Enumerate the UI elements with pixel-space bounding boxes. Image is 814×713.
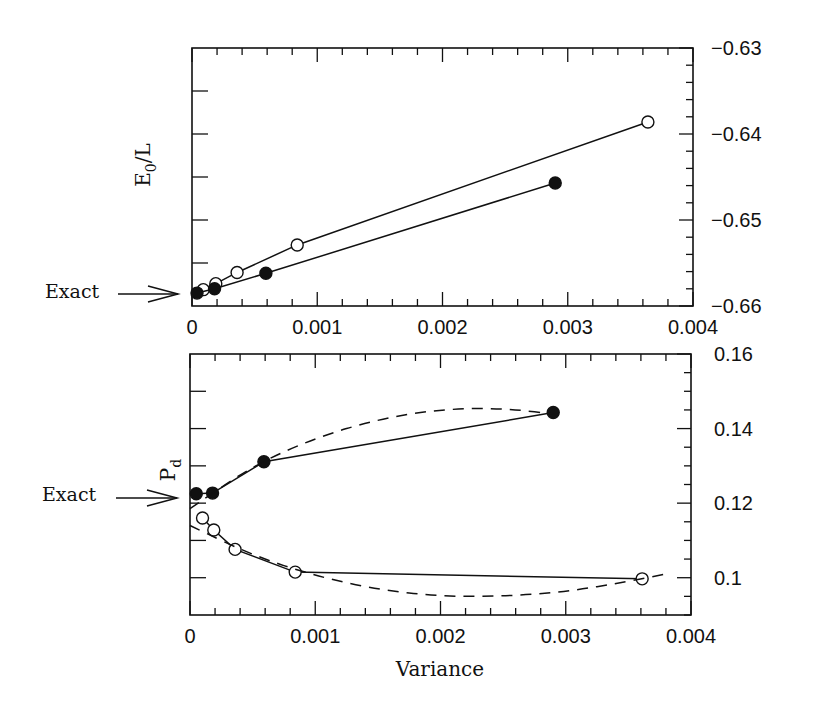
bottom-y-tick-label: 0.1	[714, 567, 742, 589]
svg-text:E0/L: E0/L	[131, 143, 159, 187]
top-y-tick-label: −0.65	[711, 209, 762, 231]
exact-arrow-bottom-icon	[116, 490, 177, 506]
bottom-y-tick-label: 0.16	[714, 343, 753, 365]
bottom-series-line	[196, 413, 553, 494]
top-series-line	[197, 183, 555, 293]
top-series-line	[203, 122, 648, 290]
filled-circle-marker	[547, 407, 559, 419]
bottom-y-axis-title: Pd	[156, 459, 184, 481]
top-y-axis-title: E0/L	[131, 143, 159, 187]
bottom-series-line	[203, 518, 643, 579]
top-y-tick-label: −0.64	[711, 123, 762, 145]
bottom-x-tick-label: 0.003	[541, 625, 591, 647]
bottom-x-tick-label: 0.004	[666, 625, 716, 647]
filled-circle-marker	[191, 287, 203, 299]
exact-label-bottom: Exact	[42, 483, 97, 505]
x-axis-title: Variance	[395, 657, 484, 681]
filled-circle-marker	[190, 488, 202, 500]
exact-label-top: Exact	[45, 280, 100, 302]
bottom-series-line	[190, 526, 666, 597]
top-x-tick-label: 0	[186, 316, 197, 338]
bottom-y-tick-label: 0.14	[714, 418, 753, 440]
bottom-panel: 00.0010.0020.0030.0040.160.140.120.1	[184, 343, 753, 647]
top-x-tick-label: 0.001	[292, 316, 342, 338]
filled-circle-marker	[209, 283, 221, 295]
filled-circle-marker	[258, 456, 270, 468]
bottom-x-tick-label: 0	[184, 625, 195, 647]
open-circle-marker	[197, 512, 209, 524]
open-circle-marker	[231, 266, 243, 278]
open-circle-marker	[289, 566, 301, 578]
top-panel: 00.0010.0020.0030.004−0.63−0.64−0.65−0.6…	[186, 37, 761, 338]
top-y-tick-label: −0.63	[711, 37, 762, 59]
chart-figure: 00.0010.0020.0030.004−0.63−0.64−0.65−0.6…	[0, 0, 814, 713]
top-x-tick-label: 0.002	[417, 316, 467, 338]
exact-arrow-top-icon	[118, 286, 178, 302]
bottom-series-line	[190, 409, 566, 509]
bottom-plot-frame	[190, 354, 691, 615]
filled-circle-marker	[549, 177, 561, 189]
top-y-tick-label: −0.66	[711, 295, 762, 317]
bottom-x-tick-label: 0.001	[290, 625, 340, 647]
svg-text:Pd: Pd	[156, 459, 184, 481]
top-x-tick-label: 0.003	[543, 316, 593, 338]
top-x-tick-label: 0.004	[668, 316, 718, 338]
open-circle-marker	[291, 239, 303, 251]
bottom-x-tick-label: 0.002	[415, 625, 465, 647]
bottom-y-tick-label: 0.12	[714, 492, 753, 514]
open-circle-marker	[642, 116, 654, 128]
filled-circle-marker	[260, 267, 272, 279]
